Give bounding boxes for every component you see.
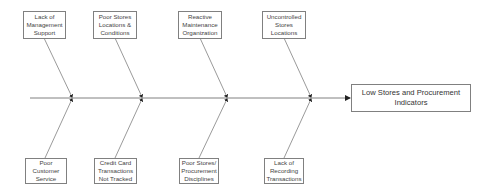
cause-box-bottom-2: Credit Card Transactions Not Tracked <box>94 158 137 184</box>
cause-box-top-3: Reactive Maintenance Organization <box>178 11 222 39</box>
effect-box: Low Stores and Procurement Indicators <box>351 84 471 112</box>
cause-box-bottom-3: Poor Stores/ Procurement Disciplines <box>179 158 219 184</box>
cause-label: Lack of Recording Transactions <box>266 159 301 183</box>
cause-label: Poor Customer Service <box>28 159 64 183</box>
bone-top-4 <box>284 38 311 97</box>
cause-label: Reactive Maintenance Organization <box>181 13 219 37</box>
cause-box-top-2: Poor Stores Locations & Conditions <box>93 11 137 39</box>
cause-box-top-4: Uncontrolled Stores Locations <box>262 11 306 39</box>
cause-label: Lack of Management Support <box>26 13 63 37</box>
bone-top-3 <box>200 38 227 97</box>
bone-top-2 <box>115 38 142 97</box>
cause-box-top-1: Lack of Management Support <box>23 11 66 39</box>
cause-box-bottom-4: Lack of Recording Transactions <box>264 158 304 184</box>
bone-top-1 <box>44 38 72 97</box>
cause-label: Uncontrolled Stores Locations <box>265 13 303 37</box>
bone-bottom-1 <box>45 99 72 158</box>
bone-bottom-2 <box>115 99 142 158</box>
cause-box-bottom-1: Poor Customer Service <box>25 158 67 184</box>
cause-label: Poor Stores/ Procurement Disciplines <box>181 159 216 183</box>
cause-label: Credit Card Transactions Not Tracked <box>97 159 134 183</box>
cause-label: Poor Stores Locations & Conditions <box>96 13 134 37</box>
effect-label: Low Stores and Procurement Indicators <box>358 88 464 108</box>
bone-bottom-3 <box>199 99 227 158</box>
bone-bottom-4 <box>284 99 311 158</box>
